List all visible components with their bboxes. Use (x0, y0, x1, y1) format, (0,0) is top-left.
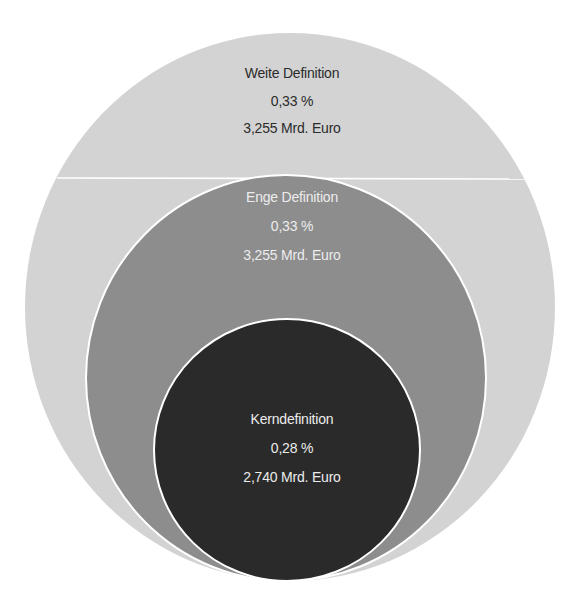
outer-circle-title: Weite Definition (0, 65, 584, 81)
middle-circle-title: Enge Definition (0, 189, 584, 205)
inner-circle-amount: 2,740 Mrd. Euro (0, 469, 584, 485)
nested-circles-diagram (0, 0, 584, 609)
middle-circle-percent: 0,33 % (0, 218, 584, 234)
outer-circle-amount: 3,255 Mrd. Euro (0, 120, 584, 136)
inner-circle-percent: 0,28 % (0, 440, 584, 456)
middle-circle-amount: 3,255 Mrd. Euro (0, 247, 584, 263)
outer-circle-percent: 0,33 % (0, 93, 584, 109)
inner-circle-title: Kerndefinition (0, 411, 584, 427)
